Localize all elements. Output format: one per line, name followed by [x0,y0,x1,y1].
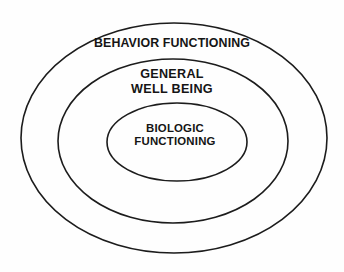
inner-ring-label-line-2: FUNCTIONING [6,135,344,148]
middle-ring-label-line-2: WELL BEING [0,82,344,97]
inner-ring-label: BIOLOGIC FUNCTIONING [0,122,344,149]
outer-ring-label-line-1: BEHAVIOR FUNCTIONING [0,36,344,51]
diagram-canvas: BEHAVIOR FUNCTIONING GENERAL WELL BEING … [0,0,344,272]
outer-ring-label: BEHAVIOR FUNCTIONING [0,36,344,51]
middle-ring-label-line-1: GENERAL [0,67,344,82]
inner-ring-label-line-1: BIOLOGIC [6,122,344,135]
middle-ring-label: GENERAL WELL BEING [0,67,344,97]
